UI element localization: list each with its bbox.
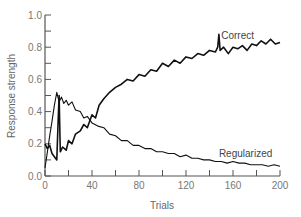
series-label-correct: Correct [221, 30, 254, 41]
x-tick-label: 200 [272, 180, 289, 191]
series-label-regularized: Regularized [219, 148, 272, 159]
x-tick-label: 80 [133, 180, 145, 191]
y-tick-label: 0.2 [28, 138, 42, 149]
y-tick-label: 0.4 [28, 106, 42, 117]
x-tick-label: 40 [86, 180, 98, 191]
y-tick-label: 0.0 [28, 171, 42, 182]
x-tick-label: 120 [178, 180, 195, 191]
x-tick-label: 0 [42, 180, 48, 191]
x-tick-label: 160 [225, 180, 242, 191]
series-line-correct [45, 34, 280, 160]
y-tick-label: 1.0 [28, 10, 42, 21]
line-chart: 0.00.20.40.60.81.004080120160200 Correct… [0, 0, 301, 217]
y-tick-label: 0.6 [28, 74, 42, 85]
y-tick-label: 0.8 [28, 42, 42, 53]
y-axis-label: Response strength [6, 54, 17, 138]
x-axis-label: Trials [150, 200, 174, 211]
